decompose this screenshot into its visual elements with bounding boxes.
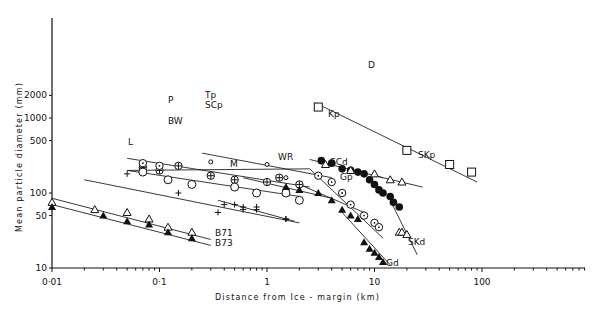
y-tick-label: 1000 [24, 113, 47, 123]
point-skp [386, 176, 394, 183]
point-l [124, 171, 130, 177]
point-scd-dot [317, 175, 319, 177]
point-d [468, 168, 476, 176]
point-scd-dot [363, 215, 365, 217]
point-gp [347, 212, 355, 219]
point-m [240, 204, 246, 210]
x-tick-label: 1 [264, 277, 270, 287]
point-bw [295, 196, 303, 204]
series-label-kp: Kp [328, 109, 340, 119]
series-label-b71: B71 [215, 228, 233, 238]
point-bw [253, 189, 261, 197]
series-labels: DKpSKpSKdSCpSCdTpPBWWRGpGdLMB71B73 [128, 60, 436, 268]
axes: 1050100500100020000·010·1110100 [24, 18, 585, 287]
point-p-dot [142, 162, 144, 164]
series-label-l: L [128, 137, 133, 147]
trend-line-p [127, 158, 310, 187]
point-l [215, 209, 221, 215]
series-label-scd: SCd [330, 157, 348, 167]
x-tick-label: 0·1 [152, 277, 166, 287]
series-label-p: P [168, 95, 174, 105]
series-label-bw: BW [168, 116, 183, 126]
point-tp [209, 160, 213, 164]
series-label-gd: Gd [386, 258, 399, 268]
series-label-wr: WR [278, 152, 293, 162]
y-tick-label: 10 [36, 263, 48, 273]
point-tp [284, 176, 288, 180]
point-scd-dot [331, 181, 333, 183]
point-kp [379, 189, 387, 197]
point-scd-dot [341, 192, 343, 194]
point-skp [371, 170, 379, 177]
series-label-scp: SCp [205, 100, 223, 110]
point-bw [231, 183, 239, 191]
x-tick-label: 0·01 [42, 277, 62, 287]
series-label-tp: Tp [204, 90, 216, 100]
series-label-m: M [230, 159, 238, 169]
trend-line-scp [127, 169, 310, 171]
point-l [175, 190, 181, 196]
point-d [314, 103, 322, 111]
chart-plot: 1050100500100020000·010·1110100 DKpSKpSK… [0, 0, 592, 318]
y-tick-label: 50 [36, 211, 48, 221]
trend-line-b73 [52, 205, 211, 246]
y-tick-label: 500 [30, 136, 47, 146]
point-p-dot [159, 165, 161, 167]
point-gp [338, 206, 346, 213]
series-label-skp: SKp [418, 150, 436, 160]
point-bw [139, 168, 147, 176]
point-kp [395, 203, 403, 211]
point-scd-dot [350, 204, 352, 206]
series-label-b73: B73 [215, 238, 233, 248]
point-m [283, 216, 289, 222]
series-label-d: D [368, 60, 375, 70]
point-d [446, 160, 454, 168]
point-tp [265, 162, 269, 166]
x-tick-label: 100 [473, 277, 490, 287]
series-label-gp: Gp [340, 172, 353, 182]
point-bw [164, 176, 172, 184]
point-scd-dot [378, 226, 380, 228]
point-l [232, 202, 238, 208]
y-tick-label: 100 [30, 188, 47, 198]
point-b71 [123, 208, 131, 215]
series-label-skd: SKd [408, 237, 425, 247]
trend-line-b71 [52, 198, 211, 239]
point-bw [282, 189, 290, 197]
point-d [403, 146, 411, 154]
point-scd-dot [374, 222, 376, 224]
x-tick-label: 10 [369, 277, 381, 287]
point-kp [360, 170, 368, 178]
trend-line-gd [342, 212, 390, 264]
point-b71 [91, 206, 99, 213]
y-tick-label: 2000 [24, 90, 47, 100]
y-axis-label: Mean particle diameter (mm) [15, 82, 24, 232]
point-wr [314, 189, 322, 196]
point-bw [188, 180, 196, 188]
x-axis-label: Distance from Ice - margin (km) [215, 293, 380, 302]
